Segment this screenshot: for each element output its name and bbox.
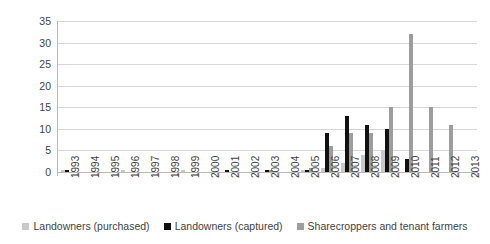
y-axis-tick-label: 5 bbox=[11, 145, 51, 155]
y-axis-tick-label: 35 bbox=[11, 16, 51, 26]
x-axis-tick-label: 1997 bbox=[151, 168, 161, 178]
legend-label: Sharecroppers and tenant farmers bbox=[308, 220, 468, 232]
x-axis-tick-label: 2011 bbox=[431, 168, 441, 178]
x-axis-tick-label: 1994 bbox=[91, 168, 101, 178]
y-axis-tick-label: 30 bbox=[11, 38, 51, 48]
y-axis-tick-label: 15 bbox=[11, 102, 51, 112]
y-axis-tick-label: 0 bbox=[11, 167, 51, 177]
x-axis-tick-label: 1995 bbox=[111, 168, 121, 178]
bar bbox=[225, 170, 229, 172]
x-axis-tick-label: 2010 bbox=[411, 168, 421, 178]
x-axis-tick-label: 2006 bbox=[331, 168, 341, 178]
bar-group bbox=[77, 21, 97, 172]
y-axis-tick-label: 10 bbox=[11, 124, 51, 134]
chart-legend: Landowners (purchased)Landowners (captur… bbox=[0, 220, 490, 232]
bar-group bbox=[177, 21, 197, 172]
bar-group bbox=[137, 21, 157, 172]
bar-group bbox=[97, 21, 117, 172]
legend-label: Landowners (purchased) bbox=[33, 220, 149, 232]
bar-group bbox=[437, 21, 457, 172]
x-axis-tick bbox=[57, 172, 58, 176]
x-axis-tick-label: 2005 bbox=[311, 168, 321, 178]
legend-item[interactable]: Landowners (purchased) bbox=[22, 220, 149, 232]
bar-group bbox=[337, 21, 357, 172]
x-axis-tick-label: 1999 bbox=[191, 168, 201, 178]
bar-group bbox=[257, 21, 277, 172]
bar-group bbox=[377, 21, 397, 172]
x-axis-tick-label: 2013 bbox=[471, 168, 481, 178]
bar-group bbox=[197, 21, 217, 172]
bar-group bbox=[397, 21, 417, 172]
legend-item[interactable]: Sharecroppers and tenant farmers bbox=[297, 220, 468, 232]
y-axis-tick-label: 25 bbox=[11, 59, 51, 69]
bar-group bbox=[317, 21, 337, 172]
bar-group bbox=[357, 21, 377, 172]
x-axis-tick-label: 1998 bbox=[171, 168, 181, 178]
legend-item[interactable]: Landowners (captured) bbox=[164, 220, 283, 232]
x-axis-tick-label: 2003 bbox=[271, 168, 281, 178]
bar-group bbox=[457, 21, 477, 172]
legend-label: Landowners (captured) bbox=[175, 220, 283, 232]
bar bbox=[409, 34, 413, 172]
bar-chart: 05101520253035 1993199419951996199719981… bbox=[0, 0, 490, 244]
bar-group bbox=[297, 21, 317, 172]
bar bbox=[121, 170, 125, 172]
x-axis-tick-label: 2004 bbox=[291, 168, 301, 178]
bar-group bbox=[117, 21, 137, 172]
bar-group bbox=[417, 21, 437, 172]
x-axis-tick-label: 2007 bbox=[351, 168, 361, 178]
x-axis-tick-label: 2012 bbox=[451, 168, 461, 178]
x-axis-tick-label: 2008 bbox=[371, 168, 381, 178]
bars-container bbox=[57, 21, 477, 172]
x-axis-tick-label: 2002 bbox=[251, 168, 261, 178]
x-axis-tick-label: 1993 bbox=[71, 168, 81, 178]
y-axis-tick-label: 20 bbox=[11, 81, 51, 91]
x-axis-tick-label: 2000 bbox=[211, 168, 221, 178]
bar bbox=[181, 170, 185, 172]
square-black-icon bbox=[164, 223, 171, 230]
bar-group bbox=[157, 21, 177, 172]
bar-group bbox=[277, 21, 297, 172]
bar-group bbox=[217, 21, 237, 172]
x-axis-tick-label: 2001 bbox=[231, 168, 241, 178]
x-axis-tick-label: 2009 bbox=[391, 168, 401, 178]
square-gray-light-icon bbox=[22, 223, 29, 230]
bar bbox=[65, 170, 69, 172]
bar-group bbox=[57, 21, 77, 172]
square-gray-icon bbox=[297, 223, 304, 230]
bar-group bbox=[237, 21, 257, 172]
x-axis-tick-label: 1996 bbox=[131, 168, 141, 178]
